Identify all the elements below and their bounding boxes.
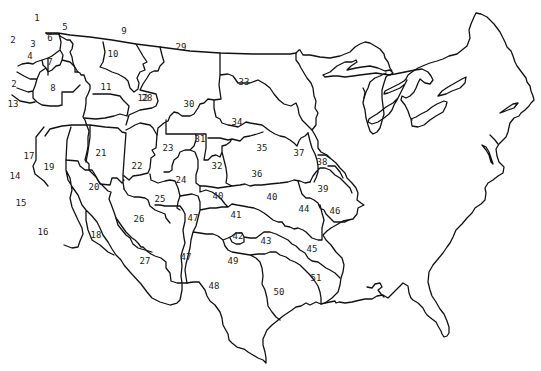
region-label-1: 1: [34, 14, 39, 23]
region-label-46: 46: [330, 207, 341, 216]
region-label-25: 25: [155, 195, 166, 204]
region-label-35: 35: [257, 144, 268, 153]
region-label-18: 18: [91, 231, 102, 240]
region-label-16: 16: [38, 228, 49, 237]
region-label-44: 44: [299, 205, 310, 214]
region-label-10: 10: [108, 50, 119, 59]
delaware-bay: [490, 135, 498, 144]
region-label-34: 34: [232, 118, 243, 127]
region-label-33: 33: [239, 78, 250, 87]
mississippi-delta: [367, 283, 384, 297]
region-label-8: 8: [50, 84, 55, 93]
region-label-49: 49: [228, 257, 239, 266]
region-label-39: 39: [318, 185, 329, 194]
region-label-4: 4: [27, 52, 32, 61]
region-label-21: 21: [96, 149, 107, 158]
chesapeake-bay: [482, 145, 493, 164]
region-label-7: 7: [47, 58, 52, 67]
region-label-13: 13: [8, 100, 19, 109]
us-outline: [46, 13, 534, 363]
long-island: [500, 103, 518, 113]
region-label-20: 20: [89, 183, 100, 192]
lake-erie: [411, 101, 447, 127]
region-label-2: 2: [10, 36, 15, 45]
region-label-9: 9: [121, 27, 126, 36]
region-label-40: 40: [267, 193, 278, 202]
region-label-40: 40: [213, 192, 224, 201]
region-label-47: 47: [188, 214, 199, 223]
region-label-48: 48: [209, 282, 220, 291]
region-label-28: 28: [142, 94, 153, 103]
region-label-15: 15: [16, 199, 27, 208]
region-label-42: 42: [233, 232, 244, 241]
region-label-36: 36: [252, 170, 263, 179]
lake-ontario: [438, 77, 466, 96]
region-label-51: 51: [311, 274, 322, 283]
region-label-19: 19: [44, 163, 55, 172]
eastern-region-boundary: [296, 53, 364, 303]
region-label-11: 11: [101, 83, 112, 92]
region-label-27: 27: [140, 257, 151, 266]
region-label-47: 47: [181, 253, 192, 262]
region-label-17: 17: [24, 152, 35, 161]
region-label-43: 43: [261, 237, 272, 246]
region-label-38: 38: [317, 158, 328, 167]
northern-border: [46, 33, 392, 71]
region-label-22: 22: [132, 162, 143, 171]
region-label-2: 2: [11, 80, 16, 89]
us-region-map: [0, 0, 541, 371]
region-label-37: 37: [294, 149, 305, 158]
region-label-3: 3: [30, 40, 35, 49]
region-label-50: 50: [274, 288, 285, 297]
region-label-6: 6: [47, 34, 52, 43]
michigan-thumb-bay: [363, 88, 365, 98]
lake-huron: [388, 69, 433, 120]
region-label-31: 31: [195, 135, 206, 144]
region-label-29: 29: [176, 43, 187, 52]
region-label-26: 26: [134, 215, 145, 224]
region-label-14: 14: [10, 172, 21, 181]
region-label-5: 5: [62, 23, 67, 32]
region-label-32: 32: [212, 162, 223, 171]
region-label-41: 41: [231, 211, 242, 220]
region-label-45: 45: [307, 245, 318, 254]
lake-michigan: [363, 73, 388, 134]
region-label-30: 30: [184, 100, 195, 109]
region-label-23: 23: [163, 144, 174, 153]
region-label-24: 24: [176, 176, 187, 185]
region-boundaries-pacific-nw: [12, 34, 80, 106]
region-boundaries-southwest: [64, 160, 185, 305]
